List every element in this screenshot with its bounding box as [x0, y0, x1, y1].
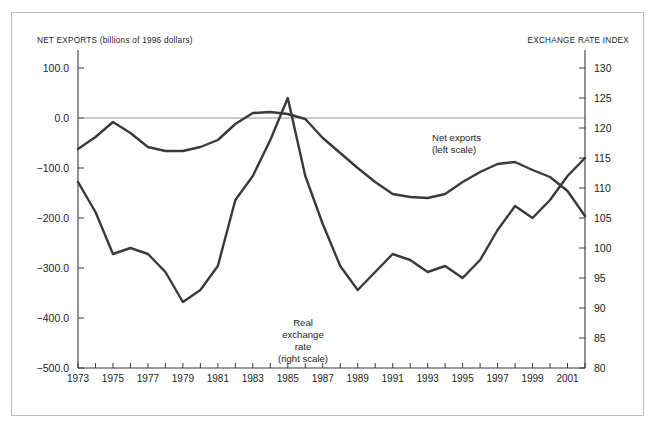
left-axis-ticks: 100.00.0−100.0−200.0−300.0−400.0−500.0: [37, 62, 84, 374]
right-tick-label: 105: [594, 212, 612, 224]
x-tick-label: 1995: [451, 373, 474, 384]
x-tick-label: 1985: [277, 373, 300, 384]
net-exports-label-line2: (left scale): [432, 144, 476, 155]
x-tick-label: 1977: [137, 373, 160, 384]
exchange-label-line3: rate: [295, 341, 312, 352]
left-tick-label: −200.0: [37, 212, 70, 224]
right-tick-label: 115: [594, 152, 611, 164]
left-tick-label: 0.0: [54, 112, 69, 124]
left-tick-label: −400.0: [37, 312, 70, 324]
right-axis-ticks: 13012512011511010510095908580: [579, 62, 612, 374]
exchange-label-line4: (right scale): [278, 353, 328, 364]
right-tick-label: 130: [594, 62, 612, 74]
left-tick-label: −100.0: [37, 162, 70, 174]
x-axis-ticks: 1973197519771979198119831985198719891991…: [67, 363, 585, 384]
x-tick-label: 1983: [242, 373, 265, 384]
exchange-label-line1: Real: [293, 317, 313, 328]
figure-net-exports-exchange-rate: NET EXPORTS (billions of 1996 dollars) E…: [0, 0, 657, 429]
right-tick-label: 80: [594, 362, 606, 374]
x-tick-label: 1987: [312, 373, 335, 384]
right-tick-label: 110: [594, 182, 611, 194]
x-tick-label: 1975: [102, 373, 125, 384]
x-tick-label: 1997: [486, 373, 509, 384]
x-tick-label: 1991: [382, 373, 405, 384]
x-tick-label: 1973: [67, 373, 90, 384]
right-tick-label: 125: [594, 92, 612, 104]
right-tick-label: 100: [594, 242, 612, 254]
net-exports-label-line1: Net exports: [432, 132, 481, 143]
left-tick-label: −500.0: [37, 362, 70, 374]
right-tick-label: 95: [594, 272, 606, 284]
x-tick-label: 2001: [556, 373, 579, 384]
x-tick-label: 1979: [172, 373, 195, 384]
series-line-real-exchange-rate: [78, 98, 585, 302]
series-line-net-exports: [78, 112, 585, 216]
x-tick-label: 1999: [521, 373, 544, 384]
right-tick-label: 90: [594, 302, 606, 314]
right-tick-label: 85: [594, 332, 606, 344]
x-tick-label: 1993: [417, 373, 440, 384]
x-tick-label: 1981: [207, 373, 230, 384]
left-tick-label: −300.0: [37, 262, 70, 274]
right-tick-label: 120: [594, 122, 612, 134]
left-tick-label: 100.0: [43, 62, 69, 74]
x-tick-label: 1989: [347, 373, 370, 384]
chart-svg: 100.00.0−100.0−200.0−300.0−400.0−500.0 1…: [0, 0, 657, 429]
exchange-label-line2: exchange: [282, 329, 324, 340]
